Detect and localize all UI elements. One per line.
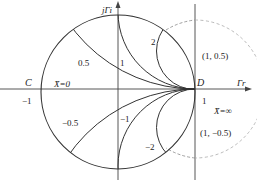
dashed-circle-arc-bottom bbox=[166, 148, 195, 158]
coordinate-lower-label: (1, −0.5) bbox=[200, 128, 231, 138]
point-C-label: C bbox=[25, 77, 32, 88]
reactance-arc-x-neg-1 bbox=[118, 89, 257, 181]
x-infinity-label: X̄=∞ bbox=[213, 106, 232, 116]
imag-axis-arrow-icon bbox=[116, 1, 121, 8]
dashed-circle-arc bbox=[166, 20, 195, 30]
point-D-label: D bbox=[196, 77, 205, 88]
coordinate-upper-label: (1, 0.5) bbox=[202, 51, 228, 61]
reactance-label-2: 2 bbox=[151, 37, 156, 47]
reactance-arc-x-0.5 bbox=[41, 0, 257, 89]
x-zero-label: X̄=0 bbox=[53, 79, 71, 89]
real-axis-arrow-icon bbox=[245, 87, 252, 92]
reactance-arc-x-1 bbox=[118, 0, 257, 89]
reactance-label-neg-1: −1 bbox=[120, 114, 130, 124]
smith-chart-diagram: jΓi Γr C D −1 1 X̄=0 X̄=∞ 0.5 1 2 −0.5 −… bbox=[0, 0, 257, 181]
tick-one-label: 1 bbox=[202, 96, 207, 106]
real-axis-label: Γr bbox=[236, 78, 246, 88]
reactance-label-1: 1 bbox=[120, 58, 125, 68]
reactance-label-0.5: 0.5 bbox=[78, 58, 90, 68]
diagram-canvas: jΓi Γr C D −1 1 X̄=0 X̄=∞ 0.5 1 2 −0.5 −… bbox=[0, 0, 257, 181]
reactance-label-neg-2: −2 bbox=[145, 142, 155, 152]
tick-minus-one-label: −1 bbox=[22, 96, 32, 106]
imag-axis-label: jΓi bbox=[101, 5, 113, 15]
reactance-label-neg-0.5: −0.5 bbox=[62, 118, 79, 128]
